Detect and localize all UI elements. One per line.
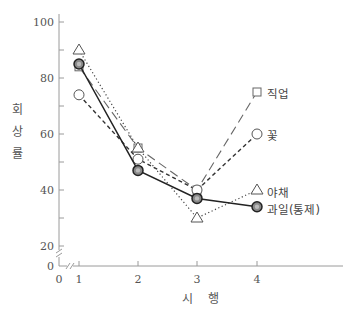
x-axis-title-char: 시 [182,292,193,306]
triangle-marker-icon [251,184,263,194]
series-line [79,50,257,218]
y-tick-label: 60 [40,128,54,141]
series-line [79,67,257,190]
triangle-marker-icon [73,44,85,54]
x-axis-title-char: 행 [208,291,219,306]
line-chart: 02040608010001234 직업꽃야채과일(통제) 회상률시행 [0,0,355,316]
x-tick-label: 3 [194,273,201,286]
circle-marker-icon [252,129,262,139]
x-tick-label: 4 [254,273,261,286]
filled-circle-marker-inner [255,205,259,209]
series-circle: 꽃 [74,90,278,195]
y-axis-title: 회 [12,103,23,117]
x-tick-label: 2 [135,273,142,286]
y-tick-label: 20 [40,240,54,253]
series-group: 직업꽃야채과일(통제) [73,44,320,222]
y-tick-label: 100 [33,16,54,29]
y-axis-title: 률 [12,147,23,161]
series-square: 직업 [75,63,289,194]
x-axis-break-icon [66,263,74,269]
series-label: 꽃 [267,129,278,143]
filled-circle-marker-inner [195,196,199,200]
x-tick-label: 1 [76,273,83,286]
y-tick-label: 80 [40,72,54,85]
y-axis-title: 상 [12,125,23,139]
filled-circle-marker-inner [77,62,81,66]
series-label: 과일(통제) [267,203,320,217]
filled-circle-marker-inner [136,168,140,172]
series-label: 야채 [267,186,289,200]
series-line [79,95,257,190]
x-tick-label: 0 [56,273,63,286]
axes: 02040608010001234 [33,14,343,286]
circle-marker-icon [74,90,84,100]
series-line [79,64,257,207]
square-marker-icon [253,88,261,96]
y-axis-break-icon [56,249,62,257]
y-tick-label: 0 [47,260,54,273]
y-tick-label: 40 [40,184,54,197]
series-label: 직업 [267,87,289,101]
triangle-marker-icon [191,212,203,222]
